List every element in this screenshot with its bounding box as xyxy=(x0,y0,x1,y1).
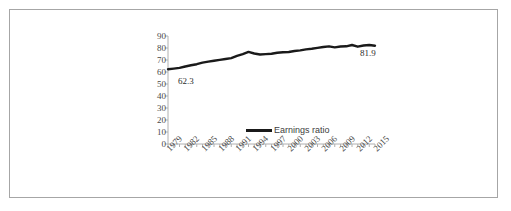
y-tick-label: 10 xyxy=(138,128,166,137)
data-label-start: 62.3 xyxy=(178,77,194,86)
y-tick-label: 20 xyxy=(138,116,166,125)
legend-line-swatch xyxy=(246,129,272,132)
y-tick-label: 50 xyxy=(138,80,166,89)
series-line-earnings-ratio xyxy=(168,45,375,69)
y-tick-label: 60 xyxy=(138,68,166,77)
line-chart: 9080706050403020100 62.3 81.9 1979198219… xyxy=(138,32,388,197)
x-axis-tick-labels: 1979198219851988199119941997200020032006… xyxy=(138,147,388,193)
y-tick-label: 70 xyxy=(138,56,166,65)
y-tick-label: 40 xyxy=(138,92,166,101)
chart-legend: Earnings ratio xyxy=(246,126,330,135)
y-axis-tick-labels: 9080706050403020100 xyxy=(138,32,166,144)
legend-item-label: Earnings ratio xyxy=(274,126,330,135)
y-tick-label: 30 xyxy=(138,104,166,113)
y-tick-label: 90 xyxy=(138,32,166,41)
image-frame: 9080706050403020100 62.3 81.9 1979198219… xyxy=(9,9,498,198)
y-tick-label: 80 xyxy=(138,44,166,53)
data-label-end: 81.9 xyxy=(360,49,376,58)
